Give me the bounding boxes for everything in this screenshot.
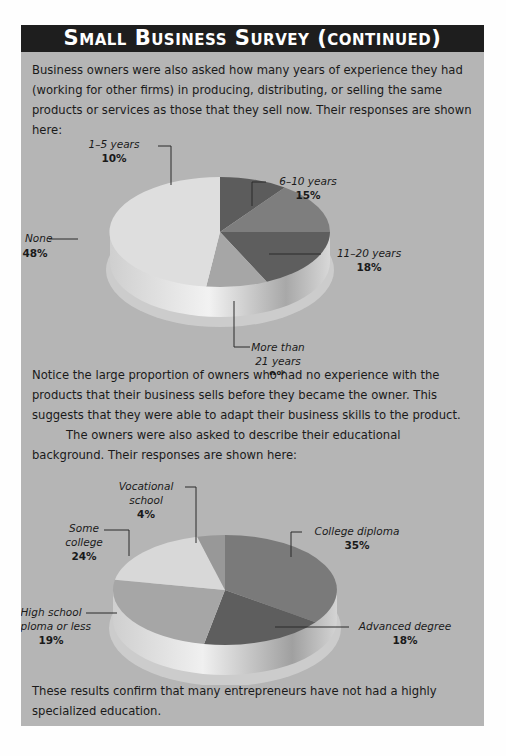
label-more-than-21-line1: More than: [251, 341, 304, 353]
label-some-college-line1: Some: [69, 522, 99, 534]
value-11-20-years: 18%: [356, 261, 382, 273]
value-vocational: 4%: [137, 508, 155, 520]
value-advanced-degree: 18%: [392, 634, 418, 646]
conclusion-paragraph: These results confirm that many entrepre…: [32, 681, 472, 721]
education-pie-chart: Vocational school 4% Some college 24% Co…: [21, 465, 484, 685]
analysis-paragraph: Notice the large proportion of owners wh…: [32, 365, 472, 425]
label-some-college-line2: college: [65, 536, 103, 548]
label-none: None: [25, 232, 52, 244]
value-some-college: 24%: [71, 550, 97, 562]
value-college-diploma: 35%: [344, 539, 370, 551]
label-high-school-line2: diploma or less: [21, 620, 92, 632]
education-intro-paragraph: The owners were also asked to describe t…: [32, 425, 472, 465]
label-1-5-years: 1–5 years: [89, 138, 140, 150]
label-6-10-years: 6–10 years: [279, 175, 337, 187]
label-college-diploma: College diploma: [315, 525, 400, 537]
value-none: 48%: [22, 247, 48, 259]
page-title: Small Business Survey (continued): [21, 25, 484, 52]
label-advanced-degree: Advanced degree: [358, 620, 451, 632]
value-1-5-years: 10%: [101, 152, 127, 164]
label-vocational-line1: Vocational: [119, 480, 174, 492]
label-high-school-line1: High school: [21, 606, 82, 618]
label-vocational-line2: school: [129, 494, 163, 506]
label-11-20-years: 11–20 years: [337, 247, 402, 259]
value-6-10-years: 15%: [295, 189, 321, 201]
value-high-school: 19%: [38, 634, 64, 646]
survey-panel: Small Business Survey (continued) Busine…: [21, 25, 484, 726]
experience-pie-chart: 1–5 years 10% 6–10 years 15% None 48% 11…: [21, 120, 484, 375]
